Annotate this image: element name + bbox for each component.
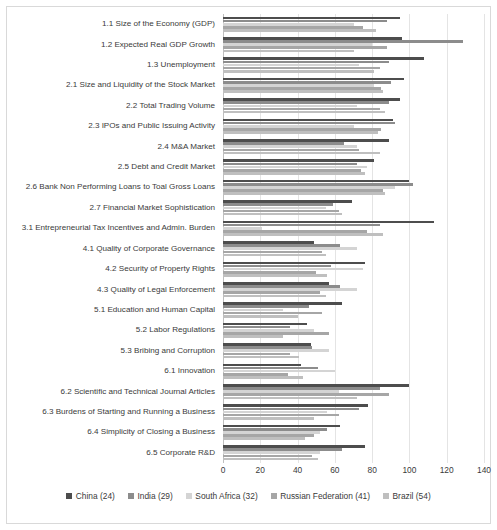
category-label: 6.2 Scientific and Technical Journal Art… <box>60 387 215 397</box>
bar-4 <box>223 315 298 318</box>
bar-4 <box>223 152 380 155</box>
bar-4 <box>223 335 283 338</box>
bar-group <box>223 381 484 401</box>
category-label: 2.1 Size and Liquidity of the Stock Mark… <box>66 80 215 90</box>
legend-label: China (24) <box>76 491 115 501</box>
legend-swatch-icon <box>128 493 134 499</box>
legend-label: South Africa (32) <box>195 491 257 501</box>
x-axis: 020406080100120140 <box>223 463 484 479</box>
category-label: 2.4 M&A Market <box>157 142 215 152</box>
x-tick-label-0: 0 <box>221 465 226 475</box>
category-label: 6.5 Corporate R&D <box>146 448 215 458</box>
bar-group <box>223 402 484 422</box>
bar-group <box>223 34 484 54</box>
category-label: 4.2 Security of Property Rights <box>105 264 215 274</box>
category-label: 2.7 Financial Market Sophistication <box>89 203 215 213</box>
category-label: 4.1 Quality of Corporate Governance <box>83 244 215 254</box>
bar-group <box>223 239 484 259</box>
bar-group <box>223 96 484 116</box>
bar-4 <box>223 70 374 73</box>
legend-swatch-icon <box>186 493 192 499</box>
category-label: 3.1 Entrepreneurial Tax Incentives and A… <box>22 223 215 233</box>
category-label: 2.2 Total Trading Volume <box>126 101 215 111</box>
bar-group <box>223 422 484 442</box>
legend-item-4[interactable]: Brazil (54) <box>383 491 431 501</box>
plot-area <box>223 14 484 463</box>
bar-4 <box>223 111 385 114</box>
bar-4 <box>223 90 383 93</box>
gridline-140 <box>484 14 485 463</box>
category-label: 6.3 Burdens of Starting and Running a Bu… <box>42 407 215 417</box>
category-axis-labels: 1.1 Size of the Economy (GDP)1.2 Expecte… <box>7 14 219 463</box>
bar-4 <box>223 192 385 195</box>
bar-group <box>223 14 484 34</box>
category-label: 2.3 IPOs and Public Issuing Activity <box>88 121 215 131</box>
legend-label: Brazil (54) <box>393 491 431 501</box>
bar-group <box>223 116 484 136</box>
category-label: 1.2 Expected Real GDP Growth <box>101 40 215 50</box>
bar-group <box>223 300 484 320</box>
legend-label: India (29) <box>137 491 172 501</box>
category-label: 6.1 Innovation <box>164 366 215 376</box>
category-label: 5.2 Labor Regulations <box>136 325 215 335</box>
bar-group <box>223 279 484 299</box>
bar-group <box>223 75 484 95</box>
category-label: 2.6 Bank Non Performing Loans to Toal Gr… <box>26 182 215 192</box>
bar-4 <box>223 437 305 440</box>
legend-swatch-icon <box>271 493 277 499</box>
bar-group <box>223 218 484 238</box>
bar-4 <box>223 233 383 236</box>
category-label: 5.1 Education and Human Capital <box>94 305 215 315</box>
category-label: 1.1 Size of the Economy (GDP) <box>102 19 215 29</box>
bar-group <box>223 198 484 218</box>
legend-swatch-icon <box>383 493 389 499</box>
bar-rows <box>223 14 484 463</box>
legend-item-3[interactable]: Russian Federation (41) <box>271 491 370 501</box>
bar-group <box>223 443 484 463</box>
bar-group <box>223 157 484 177</box>
x-tick-label-60: 60 <box>330 465 339 475</box>
category-label: 2.5 Debt and Credit Market <box>118 162 215 172</box>
bar-4 <box>223 254 326 257</box>
bar-4 <box>223 213 342 216</box>
bar-group <box>223 361 484 381</box>
bar-group <box>223 136 484 156</box>
legend-swatch-icon <box>66 493 72 499</box>
bar-group <box>223 55 484 75</box>
legend-item-2[interactable]: South Africa (32) <box>186 491 258 501</box>
bar-4 <box>223 356 299 359</box>
category-label: 6.4 Simplicity of Closing a Business <box>87 427 215 437</box>
legend-item-1[interactable]: India (29) <box>128 491 173 501</box>
legend-label: Russian Federation (41) <box>280 491 370 501</box>
bar-4 <box>223 376 303 379</box>
bar-group <box>223 259 484 279</box>
category-label: 1.3 Unemployment <box>147 60 215 70</box>
bar-group <box>223 177 484 197</box>
chart-plot-wrapper: 1.1 Size of the Economy (GDP)1.2 Expecte… <box>7 7 490 523</box>
chart-frame: 1.1 Size of the Economy (GDP)1.2 Expecte… <box>6 6 491 524</box>
bar-4 <box>223 50 354 53</box>
category-label: 4.3 Quality of Legal Enforcement <box>97 285 215 295</box>
x-tick-label-140: 140 <box>477 465 491 475</box>
bar-4 <box>223 274 327 277</box>
bar-4 <box>223 29 376 32</box>
x-tick-label-120: 120 <box>440 465 454 475</box>
bar-group <box>223 341 484 361</box>
x-tick-label-80: 80 <box>367 465 376 475</box>
bar-4 <box>223 295 326 298</box>
bar-4 <box>223 417 314 420</box>
x-tick-label-100: 100 <box>402 465 416 475</box>
x-tick-label-40: 40 <box>293 465 302 475</box>
bar-4 <box>223 397 357 400</box>
bar-4 <box>223 131 378 134</box>
x-tick-label-20: 20 <box>256 465 265 475</box>
bar-group <box>223 320 484 340</box>
bar-4 <box>223 458 318 461</box>
category-label: 5.3 Bribing and Corruption <box>121 346 216 356</box>
chart-legend: China (24)India (29)South Africa (32)Rus… <box>7 491 490 501</box>
legend-item-0[interactable]: China (24) <box>66 491 115 501</box>
bar-4 <box>223 172 365 175</box>
